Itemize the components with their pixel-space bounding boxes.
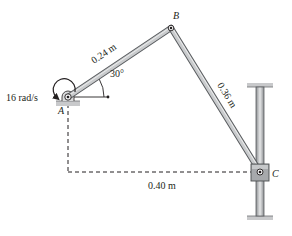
link-ab-length-label: 0.24 m [89,41,118,66]
point-b-label: B [173,10,179,21]
bottom-ground-cap [247,216,273,220]
angle-arc [99,79,104,97]
point-a-label: A [57,105,65,116]
slider-guide [247,83,273,220]
point-c-label: C [272,168,279,179]
guide-rod [256,87,264,216]
link-bc [171,28,261,173]
link-ab [68,27,171,97]
angle-label: 30° [110,68,124,79]
horizontal-distance-label: 0.40 m [148,180,176,191]
top-ground-cap [247,83,273,87]
mechanism-diagram: 16 rad/s A B C 30° 0.24 m 0.36 m 0.40 m [0,0,292,236]
reference-dot [107,96,110,99]
angular-velocity-label: 16 rad/s [6,92,38,103]
